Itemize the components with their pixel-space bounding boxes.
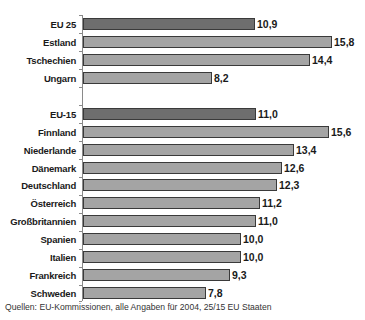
value-label: 11,2 [262, 197, 282, 210]
category-label: Frankreich [29, 269, 76, 282]
value-label: 13,4 [296, 144, 316, 157]
category-label: Spanien [40, 233, 76, 246]
value-label: 11,0 [258, 215, 278, 228]
axis-tick [79, 159, 82, 160]
bar-row: Niederlande13,4 [0, 144, 365, 157]
value-label: 8,2 [214, 72, 229, 85]
axis-tick [79, 33, 82, 34]
source-note: Quellen: EU-Kommissionen, alle Angaben f… [5, 302, 272, 312]
value-label: 14,4 [312, 54, 332, 67]
bar-row: Ungarn8,2 [0, 72, 365, 85]
axis-tick [79, 105, 82, 106]
country-bar [83, 269, 230, 281]
axis-tick [79, 267, 82, 268]
axis-tick [79, 213, 82, 214]
aggregate-bar [83, 18, 255, 30]
axis-tick [79, 249, 82, 250]
category-label: Finnland [38, 126, 76, 139]
value-label: 15,6 [331, 126, 351, 139]
country-bar [83, 126, 329, 138]
country-bar [83, 54, 310, 66]
country-bar [83, 144, 294, 156]
category-label: Großbritannien [10, 215, 76, 228]
value-label: 9,3 [232, 269, 247, 282]
bar-row: Tschechien14,4 [0, 54, 365, 67]
country-bar [83, 233, 241, 245]
country-bar [83, 215, 256, 227]
value-label: 10,0 [243, 251, 263, 264]
category-label: EU 25 [51, 18, 76, 31]
category-label: Ungarn [44, 72, 76, 85]
category-label: Österreich [30, 197, 76, 210]
category-label: Tschechien [26, 54, 76, 67]
category-label: Deutschland [21, 179, 76, 192]
category-label: Schweden [31, 287, 76, 300]
axis-tick [79, 231, 82, 232]
country-bar [83, 197, 260, 209]
axis-tick [79, 51, 82, 52]
bar-row: Finnland15,6 [0, 126, 365, 139]
value-label: 7,8 [208, 287, 223, 300]
value-label: 15,8 [334, 36, 354, 49]
axis-tick [79, 123, 82, 124]
country-bar [83, 162, 282, 174]
bar-row: Deutschland12,3 [0, 179, 365, 192]
bar-row: Österreich11,2 [0, 197, 365, 210]
bar-row: Frankreich9,3 [0, 269, 365, 282]
bar-row: Spanien10,0 [0, 233, 365, 246]
bar-row: Schweden7,8 [0, 287, 365, 300]
axis-tick [79, 87, 82, 88]
bar-row: Estland15,8 [0, 36, 365, 49]
country-bar [83, 251, 241, 263]
value-label: 10,9 [257, 18, 277, 31]
category-label: Niederlande [24, 144, 76, 157]
value-label: 12,3 [279, 179, 299, 192]
axis-tick [79, 301, 82, 302]
axis-tick [79, 177, 82, 178]
category-label: EU-15 [50, 108, 76, 121]
axis-tick [79, 195, 82, 196]
bar-row: Dänemark12,6 [0, 162, 365, 175]
axis-tick [79, 285, 82, 286]
country-bar [83, 287, 206, 299]
bar-row: EU 2510,9 [0, 18, 365, 31]
category-label: Estland [43, 36, 76, 49]
axis-tick [79, 69, 82, 70]
bar-row: Großbritannien11,0 [0, 215, 365, 228]
category-label: Italien [50, 251, 76, 264]
category-label: Dänemark [32, 162, 76, 175]
aggregate-bar [83, 108, 256, 120]
value-label: 10,0 [243, 233, 263, 246]
bar-row: EU-1511,0 [0, 108, 365, 121]
value-label: 11,0 [258, 108, 278, 121]
country-bar [83, 179, 277, 191]
value-label: 12,6 [284, 162, 304, 175]
axis-tick [79, 15, 82, 16]
bar-chart: EU 2510,9Estland15,8Tschechien14,4Ungarn… [0, 0, 365, 320]
country-bar [83, 72, 212, 84]
country-bar [83, 36, 332, 48]
axis-tick [79, 141, 82, 142]
bar-row: Italien10,0 [0, 251, 365, 264]
